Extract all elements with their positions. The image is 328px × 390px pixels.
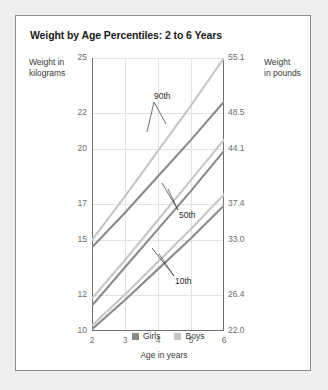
y-axis-title-right: Weight in pounds [264,57,320,79]
y-axis-title-right-line2: in pounds [264,68,301,78]
legend: GirlsBoys [132,331,204,341]
y-tick-left: 12 [57,289,87,299]
y-tick-left: 17 [57,198,87,208]
legend-swatch-girls [132,333,139,340]
y-tick-left: 15 [57,234,87,244]
series-label-90th: 90th [154,91,171,101]
legend-item[interactable]: Boys [174,331,204,341]
page-title: Weight by Age Percentiles: 2 to 6 Years [30,29,222,41]
y-tick-left: 25 [57,52,87,62]
y-tick-left: 20 [57,143,87,153]
x-axis-title: Age in years [16,350,312,360]
legend-label: Boys [185,331,204,341]
y-tick-left: 22 [57,107,87,117]
y-tick-right: 48.5 [228,107,262,117]
y-tick-right: 37.4 [228,198,262,208]
series-label-50th: 50th [179,210,196,220]
y-tick-right: 22.0 [228,325,262,335]
legend-swatch-boys [174,333,181,340]
y-tick-right: 55.1 [228,52,262,62]
x-tick: 2 [80,335,104,345]
y-tick-right: 44.1 [228,143,262,153]
chart-card: Weight by Age Percentiles: 2 to 6 Years … [15,15,311,371]
legend-item[interactable]: Girls [132,331,160,341]
y-tick-left: 10 [57,325,87,335]
y-axis-title-right-line1: Weight [264,57,290,67]
y-axis-title-left-line2: kilograms [29,68,65,78]
y-tick-right: 26.4 [228,289,262,299]
chart-page: Weight by Age Percentiles: 2 to 6 Years … [0,0,328,390]
series-label-10th: 10th [175,276,192,286]
legend-label: Girls [143,331,160,341]
x-tick: 6 [212,335,236,345]
y-tick-right: 33.0 [228,234,262,244]
